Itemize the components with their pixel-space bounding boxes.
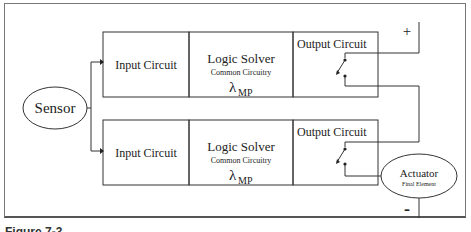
negative-terminal-label: - xyxy=(404,199,410,219)
figure-caption: Figure 7-3 ... xyxy=(5,225,76,232)
lambda-symbol-1: λ xyxy=(229,79,237,95)
logic-solver-title-1: Logic Solver xyxy=(207,51,275,66)
switch-contact-top-1 xyxy=(343,58,346,61)
switch-blade-2 xyxy=(337,149,345,162)
switch-contact-bottom-1 xyxy=(343,74,346,77)
output-circuit-label-1: Output Circuit xyxy=(297,37,367,51)
output-circuit-label-2: Output Circuit xyxy=(297,125,367,139)
input-circuit-label-2: Input Circuit xyxy=(115,146,177,160)
lambda-subscript-2: MP xyxy=(238,175,253,186)
positive-terminal-label: + xyxy=(403,23,411,39)
logic-solver-subtitle-2: Common Circuitry xyxy=(211,156,272,165)
actuator-label: Actuator xyxy=(400,167,439,179)
sensor-label: Sensor xyxy=(35,100,76,116)
input-circuit-label-1: Input Circuit xyxy=(115,58,177,72)
switch-contact-bottom-2 xyxy=(343,162,346,165)
switch-blade-1 xyxy=(337,60,345,73)
actuator-sublabel: Final Element xyxy=(402,181,436,187)
wire-to-actuator xyxy=(345,164,381,176)
switch-contact-top-2 xyxy=(343,147,346,150)
logic-solver-subtitle-1: Common Circuitry xyxy=(211,68,272,77)
lambda-symbol-2: λ xyxy=(229,167,237,183)
lambda-subscript-1: MP xyxy=(238,87,253,98)
diagram-canvas: Sensor Input Circuit Logic Solver Common… xyxy=(0,0,471,232)
logic-solver-title-2: Logic Solver xyxy=(207,139,275,154)
